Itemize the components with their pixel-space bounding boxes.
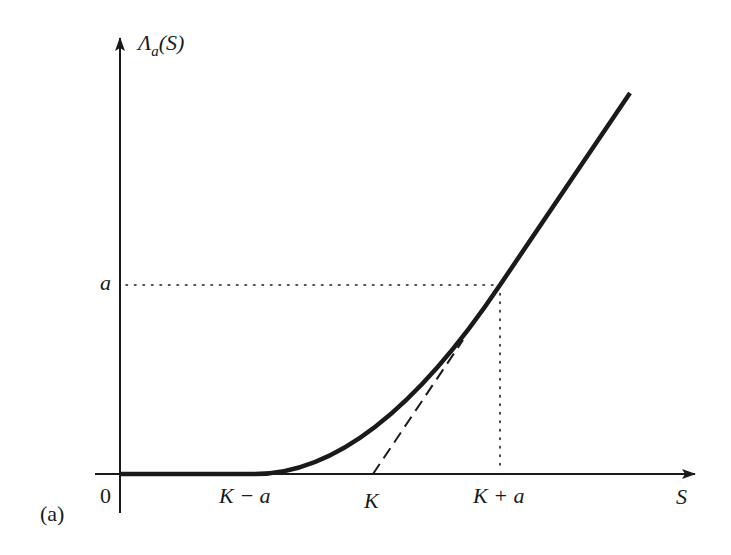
panel-label: (a) bbox=[40, 503, 64, 525]
y-axis-label-lambda: Λ bbox=[138, 30, 151, 55]
smoothed-payoff-curve bbox=[120, 93, 630, 474]
x-tick-label-k-minus-a: K − a bbox=[219, 485, 271, 507]
figure: Λa(S) a 0 K − a K K + a S (a) bbox=[0, 0, 731, 555]
payoff-dashed-line bbox=[373, 340, 463, 474]
y-axis-label-subscript: a bbox=[151, 43, 159, 59]
y-axis-label: Λa(S) bbox=[138, 32, 184, 54]
x-axis-label: S bbox=[676, 486, 687, 508]
y-tick-label-a: a bbox=[100, 272, 111, 294]
y-axis-label-argument: (S) bbox=[159, 30, 185, 55]
origin-label: 0 bbox=[100, 485, 111, 507]
x-tick-label-k-plus-a: K + a bbox=[473, 485, 525, 507]
x-tick-label-k: K bbox=[364, 490, 379, 512]
